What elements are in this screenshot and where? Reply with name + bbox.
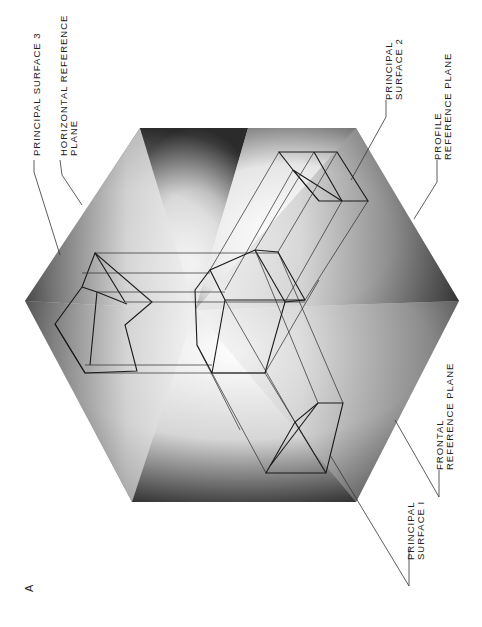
leader-horizontal-reference-plane bbox=[60, 160, 82, 205]
label-principal-surface-3: PRINCIPAL SURFACE 3 bbox=[31, 32, 42, 156]
label-frontal-reference-plane-2: REFERENCE PLANE bbox=[444, 363, 455, 470]
reference-planes bbox=[25, 128, 459, 502]
leader-principal-surface-3 bbox=[34, 160, 60, 255]
leader-profile-reference-plane bbox=[414, 160, 437, 219]
label-profile-reference-plane-2: REFERENCE PLANE bbox=[442, 53, 453, 160]
figure-letter: A bbox=[23, 584, 35, 592]
reference-planes-diagram: PRINCIPAL SURFACE 3 HORIZONTAL REFERENCE… bbox=[0, 0, 482, 627]
leader-frontal-reference-plane bbox=[395, 420, 439, 497]
label-horizontal-reference-plane-2: PLANE bbox=[68, 120, 79, 156]
label-principal-surface-1-2: SURFACE I bbox=[415, 501, 426, 560]
label-principal-surface-2-2: SURFACE 2 bbox=[393, 38, 404, 100]
